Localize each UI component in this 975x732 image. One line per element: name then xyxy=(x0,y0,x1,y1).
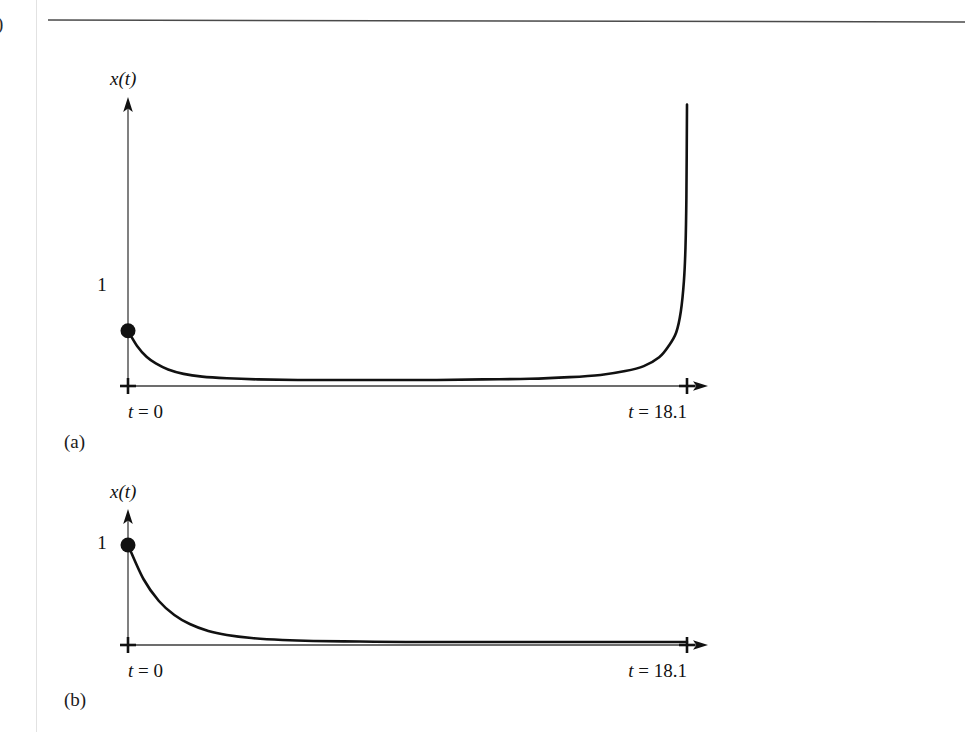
figure-b-caption: (b) xyxy=(64,690,86,709)
fig-b-y-value-label: 1 xyxy=(97,532,107,553)
fig-b-tick-origin xyxy=(120,637,136,653)
fig-b-x-end-label: t = 18.1 xyxy=(628,660,687,681)
fig-b-tick-end xyxy=(679,637,695,653)
fig-a-y-axis-label: x(t) xyxy=(109,68,136,90)
page-margin-line xyxy=(36,0,37,732)
fig-b-y-axis-label: x(t) xyxy=(109,481,136,503)
fig-a-x-start-label: t = 0 xyxy=(128,401,163,422)
fig-a-initial-dot xyxy=(121,323,136,338)
fig-a-x-axis xyxy=(128,381,708,391)
figure-a: x(t) 1 t = 0 t = 18.1 xyxy=(60,55,760,435)
fig-b-curve xyxy=(128,545,687,642)
figure-a-caption: (a) xyxy=(64,432,85,451)
fig-a-curve xyxy=(128,105,687,380)
figure-page: ) xyxy=(0,0,975,732)
fig-a-tick-end xyxy=(679,378,695,394)
fig-a-y-value-label: 1 xyxy=(97,274,107,295)
figure-b: x(t) 1 t = 0 t = 18.1 xyxy=(60,470,760,685)
top-horizontal-rule xyxy=(48,12,965,28)
fig-b-x-start-label: t = 0 xyxy=(128,660,163,681)
fig-a-x-end-label: t = 18.1 xyxy=(628,401,687,422)
fig-b-y-axis xyxy=(123,509,133,645)
fig-b-initial-dot xyxy=(121,538,136,553)
fig-a-y-axis xyxy=(123,97,133,386)
fig-a-tick-origin xyxy=(120,378,136,394)
margin-paren-glyph: ) xyxy=(0,14,3,33)
